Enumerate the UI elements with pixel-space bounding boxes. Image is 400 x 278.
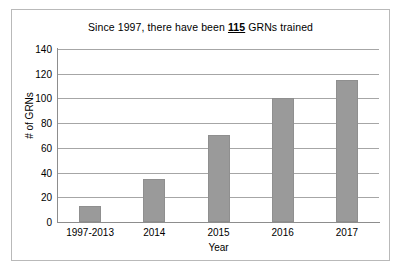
- y-axis-tick-label: 80: [18, 118, 52, 129]
- y-axis-tick-label: 120: [18, 69, 52, 80]
- chart-title-emphasis: 115: [228, 21, 245, 33]
- y-axis-tick-label: 100: [18, 93, 52, 104]
- y-axis-tick-labels: 140120100806040200: [12, 49, 52, 222]
- x-axis-title: Year: [58, 242, 379, 253]
- chart-container: Since 1997, there have been 115 GRNs tra…: [11, 9, 390, 261]
- bar: [208, 135, 230, 222]
- bar: [79, 206, 101, 222]
- y-axis-tick-label: 140: [18, 44, 52, 55]
- y-axis-tick-label: 0: [18, 217, 52, 228]
- y-axis-tick-label: 20: [18, 192, 52, 203]
- bar: [272, 98, 294, 222]
- bar: [336, 80, 358, 222]
- plot-area: [58, 49, 379, 222]
- y-axis-tick-label: 40: [18, 168, 52, 179]
- gridline: [58, 74, 379, 75]
- chart-title-prefix: Since 1997, there have been: [88, 21, 228, 33]
- x-axis-tick-label: 2017: [302, 227, 392, 238]
- gridline: [58, 49, 379, 50]
- bar: [143, 179, 165, 222]
- chart-title: Since 1997, there have been 115 GRNs tra…: [12, 21, 389, 33]
- gridline: [58, 98, 379, 99]
- gridline: [58, 123, 379, 124]
- y-axis-tick-label: 60: [18, 143, 52, 154]
- x-axis-line: [57, 222, 380, 223]
- chart-title-suffix: GRNs trained: [245, 21, 313, 33]
